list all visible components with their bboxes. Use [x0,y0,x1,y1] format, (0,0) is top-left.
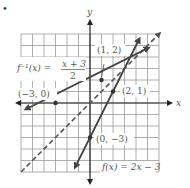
y-axis-label: y [86,7,93,17]
function-label: f(x) = 2x − 3 [100,161,161,173]
inverse-function-label: f⁻¹(x) = x + 3 2 [16,57,86,81]
point-0-neg3 [88,135,92,139]
function-label-text: f(x) = 2x − 3 [101,162,161,172]
inverse-label-denominator: 2 [70,71,76,81]
point-label-0-neg3: (0, −3) [96,134,128,144]
point-2-1 [111,89,115,93]
bullet-marker: • [2,3,8,14]
point-label-neg3-0: (−3, 0) [18,89,50,99]
inverse-label-numerator: x + 3 [62,59,86,69]
inverse-label-lhs: f⁻¹(x) = [16,63,51,73]
function-graph: • y x (1, 2) (2, 1) (−3, 0) (0, −3) f⁻¹(… [0,0,190,188]
point-label-2-1: (2, 1) [122,86,146,96]
point-1-2 [99,78,103,82]
point-neg3-0 [53,101,57,105]
x-axis-label: x [176,98,181,108]
point-label-1-2: (1, 2) [97,45,121,55]
